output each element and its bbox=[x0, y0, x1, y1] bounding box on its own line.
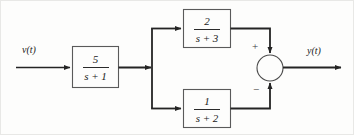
block-gain-1-denominator: s + 1 bbox=[74, 70, 117, 82]
fraction-bar-icon bbox=[194, 109, 220, 110]
diagram-svg bbox=[0, 0, 354, 135]
block-upper-path-denominator: s + 3 bbox=[185, 32, 229, 44]
wire-upper-to-summer bbox=[231, 29, 271, 54]
summing-junction-plus-sign: + bbox=[252, 41, 258, 52]
block-lower-path-numerator: 1 bbox=[185, 96, 229, 108]
block-lower-path-label: 1 s + 2 bbox=[185, 96, 229, 124]
block-gain-1-numerator: 5 bbox=[74, 54, 117, 66]
wire-lower-to-summer bbox=[231, 83, 271, 109]
summing-junction-minus-sign: − bbox=[253, 84, 259, 95]
block-diagram-canvas: v(t) y(t) 5 s + 1 2 s + 3 1 s + 2 + − bbox=[0, 0, 354, 135]
summing-junction-shape bbox=[257, 55, 283, 81]
block-lower-path-denominator: s + 2 bbox=[185, 112, 229, 124]
output-signal-label: y(t) bbox=[307, 45, 321, 56]
block-upper-path-numerator: 2 bbox=[185, 16, 229, 28]
block-upper-path-label: 2 s + 3 bbox=[185, 16, 229, 44]
fraction-bar-icon bbox=[83, 67, 109, 68]
input-signal-label: v(t) bbox=[22, 44, 36, 55]
block-gain-1-label: 5 s + 1 bbox=[74, 54, 117, 82]
fraction-bar-icon bbox=[194, 29, 220, 30]
